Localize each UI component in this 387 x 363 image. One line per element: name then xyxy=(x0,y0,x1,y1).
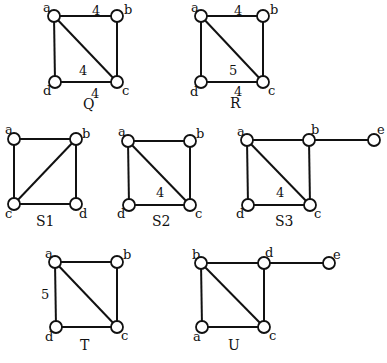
node-b xyxy=(70,133,82,145)
graph-caption: T xyxy=(80,337,90,353)
edge-a-b xyxy=(201,263,202,327)
node-label-b: b xyxy=(196,126,204,141)
edge-d-a xyxy=(128,141,129,205)
graph-caption: U xyxy=(228,337,240,353)
node-label-e: e xyxy=(333,247,341,262)
graph-caption: Q xyxy=(83,96,94,112)
graph-s2: abcd4S2 xyxy=(117,124,204,229)
node-label-b: b xyxy=(82,126,90,141)
node-label-c: c xyxy=(314,206,321,221)
node-label-a: a xyxy=(43,0,51,15)
graph-caption: R xyxy=(230,95,241,111)
edge-weight-label: 4 xyxy=(156,185,164,200)
node-b xyxy=(257,10,269,22)
node-label-a: a xyxy=(118,124,126,139)
node-label-d: d xyxy=(190,84,198,99)
node-label-d: d xyxy=(265,245,273,260)
edge-weight-label: 4 xyxy=(276,185,284,200)
node-b xyxy=(111,10,123,22)
node-label-a: a xyxy=(5,122,13,137)
edge-weight-label: 5 xyxy=(229,63,237,78)
node-label-c: c xyxy=(268,83,275,98)
edge-weight-label: 4 xyxy=(92,3,100,18)
node-label-c: c xyxy=(121,328,128,343)
node-label-b: b xyxy=(311,122,319,137)
node-label-d: d xyxy=(43,83,51,98)
graph-u: bdeacU xyxy=(192,245,341,353)
graph-t: abcd5T xyxy=(41,246,131,353)
edge-b-c xyxy=(14,139,76,204)
edge-a-c xyxy=(55,262,117,327)
edge-d-a xyxy=(54,16,55,82)
edge-b-c xyxy=(309,140,310,205)
graph-caption: S1 xyxy=(36,213,55,229)
node-label-c: c xyxy=(122,83,129,98)
node-label-b: b xyxy=(124,2,132,17)
graph-s1: abcdS1 xyxy=(5,122,90,229)
graph-diagram-canvas: abcd444Qabcd454RabcdS1abcd4S2abcde4S3abc… xyxy=(0,0,387,363)
edge-d-a xyxy=(247,140,248,205)
edge-weight-label: 4 xyxy=(79,63,87,78)
edge-weight-label: 4 xyxy=(234,3,242,18)
node-label-a: a xyxy=(193,329,201,344)
node-label-b: b xyxy=(192,247,200,262)
graph-q: abcd444Q xyxy=(43,0,132,112)
node-label-e: e xyxy=(377,122,385,137)
node-label-c: c xyxy=(269,328,276,343)
edge-d-a xyxy=(55,262,56,327)
graph-s3: abcde4S3 xyxy=(236,122,385,229)
graph-caption: S2 xyxy=(152,213,171,229)
node-label-d: d xyxy=(236,206,244,221)
node-b xyxy=(111,256,123,268)
node-label-a: a xyxy=(45,246,53,261)
node-label-d: d xyxy=(117,206,125,221)
edge-b-c xyxy=(201,263,264,327)
node-label-d: d xyxy=(79,206,87,221)
graph-caption: S3 xyxy=(275,213,294,229)
node-label-d: d xyxy=(45,329,53,344)
node-b xyxy=(184,135,196,147)
node-label-b: b xyxy=(270,2,278,17)
graph-r: abcd454R xyxy=(190,0,278,111)
node-label-a: a xyxy=(237,124,245,139)
node-label-c: c xyxy=(5,206,12,221)
node-label-a: a xyxy=(191,0,199,15)
edge-weight-label: 5 xyxy=(41,287,49,302)
node-label-b: b xyxy=(123,247,131,262)
node-label-c: c xyxy=(195,206,202,221)
